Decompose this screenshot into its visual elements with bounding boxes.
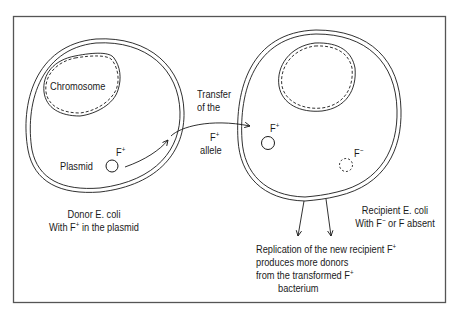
plasmid-label: Plasmid xyxy=(60,160,93,172)
sign: + xyxy=(76,221,80,228)
recipient-chromosome xyxy=(279,43,356,111)
transfer-arrow xyxy=(125,140,168,167)
result-line4: bacterium xyxy=(278,282,319,294)
factor-sign: + xyxy=(276,122,280,129)
text: Replication of the new recipient F xyxy=(256,243,393,255)
sign: + xyxy=(350,269,354,276)
result-line3: from the transformed F+ xyxy=(256,269,354,281)
recipient-received-plasmid xyxy=(262,137,275,150)
result-line1: Replication of the new recipient F+ xyxy=(256,243,396,255)
text: With F xyxy=(49,221,76,233)
replication-arrow-right xyxy=(326,199,331,236)
text: in the plasmid xyxy=(79,221,139,233)
recipient-caption-line2: With F− or F absent xyxy=(347,217,444,229)
donor-plasmid-factor: F+ xyxy=(116,146,125,158)
factor-sign: + xyxy=(122,146,126,153)
transfer-line1: Transfer xyxy=(197,88,231,100)
sign: + xyxy=(393,243,397,250)
recipient-cell-membrane xyxy=(238,30,401,201)
conjugation-diagram: Chromosome F+ Plasmid Donor E. coli With… xyxy=(0,0,459,319)
transfer-line4: allele xyxy=(200,144,222,156)
recipient-caption-line1: Recipient E. coli xyxy=(347,204,444,216)
donor-plasmid xyxy=(106,160,118,172)
sign: − xyxy=(382,217,386,224)
text: from the transformed F xyxy=(256,269,350,281)
donor-cell-membrane xyxy=(26,39,184,193)
text: With F xyxy=(355,217,382,229)
replication-arrow-left xyxy=(298,201,304,236)
transfer-line3: F+ xyxy=(210,131,219,143)
transfer-line2: of the xyxy=(197,101,220,113)
text: or F absent xyxy=(385,217,434,229)
factor-sign: − xyxy=(360,147,364,154)
factor-sign: + xyxy=(216,131,220,138)
result-line2: produces more donors xyxy=(256,256,348,268)
absent-factor-label: F− xyxy=(354,147,363,159)
recipient-absent-plasmid xyxy=(340,159,353,172)
donor-caption-line1: Donor E. coli xyxy=(32,208,155,220)
chromosome-label: Chromosome xyxy=(50,80,105,92)
received-factor-label: F+ xyxy=(270,122,279,134)
donor-caption-line2: With F+ in the plasmid xyxy=(32,221,155,233)
